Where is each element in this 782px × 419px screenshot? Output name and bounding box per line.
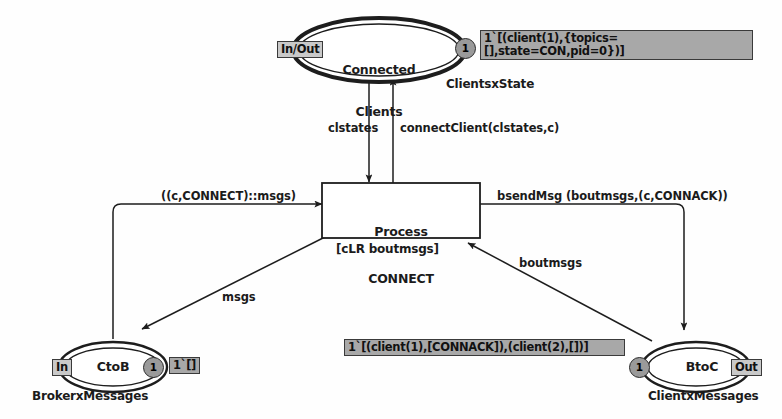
- marking-connected-clients[interactable]: 1`[(client(1),{topics=[],state=CON,pid=0…: [480, 30, 753, 60]
- arc-label-connect-msgs[interactable]: ((c,CONNECT)::msgs): [161, 190, 296, 203]
- type-label-ctob: BrokerxMessages: [32, 390, 148, 403]
- arc-label-bsendmsg[interactable]: bsendMsg (boutmsgs,(c,CONNACK)): [497, 190, 728, 203]
- marking-btoc[interactable]: 1`[(client(1),[CONNACK]),(client(2),[])]: [344, 339, 625, 356]
- cpn-diagram-canvas: Connected Clients In/Out 1 1`[(client(1)…: [0, 0, 782, 419]
- port-tag-connected-clients[interactable]: In/Out: [277, 41, 323, 58]
- port-tag-btoc[interactable]: Out: [731, 359, 762, 376]
- arc-msgs-path: [142, 237, 325, 329]
- type-label-btoc: ClientxMessages: [648, 390, 759, 403]
- arc-bsendmsg-path: [480, 204, 684, 330]
- place-connected-clients-name-line2: Clients: [319, 105, 439, 119]
- arc-label-boutmsgs[interactable]: boutmsgs: [519, 257, 582, 270]
- transition-name-line2: CONNECT: [322, 271, 480, 287]
- place-btoc-name: BtoC: [672, 360, 732, 374]
- arc-label-msgs[interactable]: msgs: [222, 291, 256, 304]
- transition-name-line1: Process: [322, 224, 480, 240]
- arc-connect-msgs-path: [113, 204, 322, 339]
- arc-label-clstates[interactable]: clstates: [328, 122, 378, 135]
- place-ctob-name: CtoB: [83, 360, 143, 374]
- place-connected-clients-name-line1: Connected: [319, 63, 439, 77]
- token-badge-btoc[interactable]: 1: [629, 357, 650, 378]
- marking-ctob[interactable]: 1`[]: [169, 357, 200, 374]
- arc-label-connectclient[interactable]: connectClient(clstates,c): [400, 122, 559, 135]
- port-tag-ctob[interactable]: In: [52, 359, 72, 376]
- token-badge-connected-clients[interactable]: 1: [455, 38, 476, 59]
- type-label-connected-clients: ClientsxState: [446, 78, 534, 91]
- transition-guard[interactable]: [cLR boutmsgs]: [336, 243, 439, 256]
- token-badge-ctob[interactable]: 1: [143, 357, 164, 378]
